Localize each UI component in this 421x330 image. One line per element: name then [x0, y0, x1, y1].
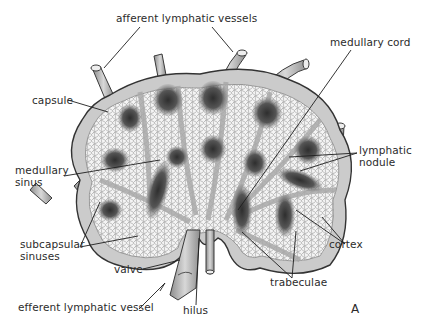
label-valve: valve — [114, 263, 143, 275]
label-medullary-sinus-line2: sinus — [15, 176, 43, 188]
label-cortex: cortex — [329, 238, 363, 250]
label-medullary-cord: medullary cord — [330, 36, 411, 48]
label-afferent-lymphatic-vessels: afferent lymphatic vessels — [116, 12, 257, 24]
label-lymphatic-nodule-line1: lymphatic — [359, 144, 412, 156]
lymph-node-diagram: afferent lymphatic vessels medullary cor… — [0, 0, 421, 330]
label-efferent-lymphatic-vessel: efferent lymphatic vessel — [18, 301, 154, 313]
label-lymphatic-nodule-line2: nodule — [359, 156, 395, 168]
label-trabeculae: trabeculae — [270, 276, 327, 288]
label-capsule: capsule — [32, 94, 73, 106]
label-medullary-sinus-line1: medullary — [15, 164, 69, 176]
panel-letter: A — [351, 302, 359, 316]
label-hilus: hilus — [183, 304, 208, 316]
label-subcapsular-sinuses-line1: subcapsular — [20, 238, 85, 250]
label-subcapsular-sinuses-line2: sinuses — [20, 250, 60, 262]
